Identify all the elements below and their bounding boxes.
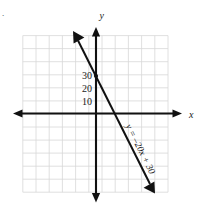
- y-axis-arrow-up: [92, 27, 100, 37]
- y-axis-label: y: [99, 10, 105, 21]
- x-axis: [13, 109, 182, 117]
- y-tick-label-20: 20: [82, 83, 92, 94]
- y-intercept-point: [94, 74, 98, 78]
- y-tick-label-10: 10: [82, 96, 92, 107]
- coordinate-plane: 30 20 10 y x y = –20x + 30 .: [0, 0, 206, 210]
- y-axis-arrow-down: [92, 193, 100, 203]
- x-axis-arrow-right: [173, 109, 183, 117]
- graph-figure: 30 20 10 y x y = –20x + 30 .: [0, 0, 206, 210]
- y-tick-label-30: 30: [82, 70, 92, 81]
- corner-mark: .: [2, 8, 4, 18]
- plotted-line: [73, 31, 155, 194]
- x-axis-arrow-left: [13, 109, 23, 117]
- x-axis-label: x: [188, 109, 194, 120]
- y-axis: [92, 27, 100, 203]
